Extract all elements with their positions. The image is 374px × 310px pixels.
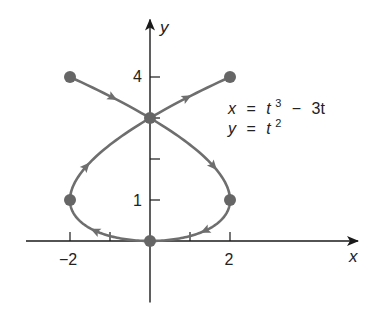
eq-y-exponent: 2 (275, 117, 281, 129)
parametric-curve-diagram: x y −2 2 1 4 x = t 3 − 3t y = t 2 (0, 0, 374, 310)
y-tick-label-4: 4 (133, 68, 142, 85)
plot-area: x y −2 2 1 4 x = t 3 − 3t y = t 2 (0, 0, 374, 310)
x-tick-labels: −2 2 (59, 251, 234, 268)
x-axis-label: x (348, 247, 358, 266)
y-tick-label-1: 1 (133, 192, 142, 209)
marked-point (224, 71, 236, 83)
x-tick-label-2: 2 (225, 251, 234, 268)
y-tick-labels: 1 4 (133, 68, 142, 209)
eq-y-t: t (266, 120, 271, 137)
x-tick-label-neg2: −2 (59, 251, 77, 268)
equations-annotation: x = t 3 − 3t y = t 2 (227, 93, 325, 137)
eq-x-minus: − (292, 100, 301, 117)
equation-x: x = t 3 − 3t (227, 93, 325, 117)
marked-point (64, 194, 76, 206)
eq-x-exponent: 3 (275, 97, 281, 109)
direction-arrow-icon (199, 225, 212, 237)
y-ticks (150, 77, 160, 200)
direction-arrow-icon (106, 91, 119, 104)
eq-y-lhs: y (227, 120, 237, 137)
eq-x-rest: 3t (312, 100, 326, 117)
direction-arrow-icon (181, 91, 194, 104)
eq-y-equals: = (246, 120, 255, 137)
eq-x-equals: = (246, 100, 255, 117)
marked-point (224, 194, 236, 206)
equation-y: y = t 2 (227, 117, 281, 137)
direction-arrow-icon (89, 225, 102, 237)
y-axis-label: y (159, 18, 170, 37)
marked-point (144, 235, 156, 247)
eq-x-lhs: x (227, 100, 237, 117)
marked-point (64, 71, 76, 83)
eq-x-t: t (266, 100, 271, 117)
marked-point (144, 112, 156, 124)
